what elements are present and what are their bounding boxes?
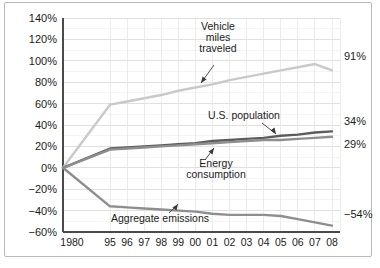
x-tick-label: 04 [258, 236, 270, 248]
x-tick-label: 06 [292, 236, 304, 248]
x-tick-label: 08 [326, 236, 338, 248]
x-tick-label: 96 [121, 236, 133, 248]
x-axis-tick-labels: 19809596979899000102030405060708 [60, 236, 338, 248]
y-tick-label: 0% [41, 162, 57, 174]
series-end-label: 34% [344, 115, 366, 127]
line-chart: −60%−40%−20%0%20%40%60%80%100%120%140% 1… [0, 0, 380, 268]
y-tick-label: 20% [35, 140, 57, 152]
x-tick-label: 07 [309, 236, 321, 248]
series-end-label: 91% [344, 50, 366, 62]
x-tick-label: 02 [224, 236, 236, 248]
chart-figure: −60%−40%−20%0%20%40%60%80%100%120%140% 1… [0, 0, 380, 268]
y-tick-label: 140% [29, 12, 57, 24]
y-tick-label: 40% [35, 119, 57, 131]
x-tick-label: 00 [190, 236, 202, 248]
series-end-labels: 91%34%29%−54% [344, 50, 373, 219]
y-tick-label: 60% [35, 98, 57, 110]
y-axis-tick-labels: −60%−40%−20%0%20%40%60%80%100%120%140% [29, 12, 58, 238]
x-tick-label: 05 [275, 236, 287, 248]
x-tick-label: 03 [241, 236, 253, 248]
y-tick-label: 120% [29, 33, 57, 45]
annotation-us-population: U.S. population [208, 109, 280, 121]
y-tick-label: −60% [29, 226, 58, 238]
x-tick-label: 99 [172, 236, 184, 248]
y-tick-label: −40% [29, 205, 58, 217]
x-tick-label: 95 [104, 236, 116, 248]
x-tick-label: 97 [138, 236, 150, 248]
series-end-label: 29% [344, 138, 366, 150]
x-tick-label: 1980 [60, 236, 84, 248]
y-tick-label: −20% [29, 183, 58, 195]
x-tick-label: 01 [207, 236, 219, 248]
annotation-aggregate-emissions: Aggregate emissions [111, 212, 209, 224]
x-tick-label: 98 [155, 236, 167, 248]
series-end-label: −54% [344, 208, 373, 220]
y-tick-label: 80% [35, 76, 57, 88]
y-tick-label: 100% [29, 55, 57, 67]
